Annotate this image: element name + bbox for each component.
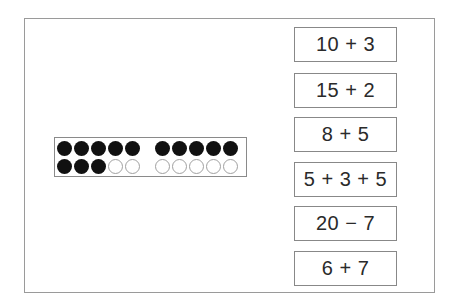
filled-counter-icon — [223, 141, 238, 156]
expression-label: 8 + 5 — [322, 123, 370, 146]
expression-label: 15 + 2 — [316, 79, 375, 102]
expression-card-6[interactable]: 6 + 7 — [294, 251, 397, 286]
filled-counter-icon — [172, 141, 187, 156]
expression-label: 10 + 3 — [316, 33, 375, 56]
expression-label: 6 + 7 — [322, 257, 370, 280]
filled-counter-icon — [206, 141, 221, 156]
filled-counter-icon — [74, 159, 89, 174]
filled-counter-icon — [108, 141, 123, 156]
empty-counter-icon — [189, 159, 204, 174]
empty-counter-icon — [155, 159, 170, 174]
filled-counter-icon — [91, 159, 106, 174]
filled-counter-icon — [57, 141, 72, 156]
filled-counter-icon — [155, 141, 170, 156]
empty-counter-icon — [223, 159, 238, 174]
filled-counter-icon — [189, 141, 204, 156]
expression-card-4[interactable]: 5 + 3 + 5 — [294, 162, 397, 197]
expression-card-2[interactable]: 15 + 2 — [294, 73, 397, 108]
empty-counter-icon — [206, 159, 221, 174]
expression-card-1[interactable]: 10 + 3 — [294, 27, 397, 62]
expression-card-3[interactable]: 8 + 5 — [294, 117, 397, 152]
expression-card-5[interactable]: 20 − 7 — [294, 206, 397, 241]
expression-label: 5 + 3 + 5 — [304, 168, 387, 191]
empty-counter-icon — [172, 159, 187, 174]
empty-counter-icon — [108, 159, 123, 174]
empty-counter-icon — [125, 159, 140, 174]
filled-counter-icon — [74, 141, 89, 156]
filled-counter-icon — [91, 141, 106, 156]
filled-counter-icon — [57, 159, 72, 174]
double-ten-frame — [54, 137, 247, 177]
filled-counter-icon — [125, 141, 140, 156]
expression-label: 20 − 7 — [316, 212, 375, 235]
